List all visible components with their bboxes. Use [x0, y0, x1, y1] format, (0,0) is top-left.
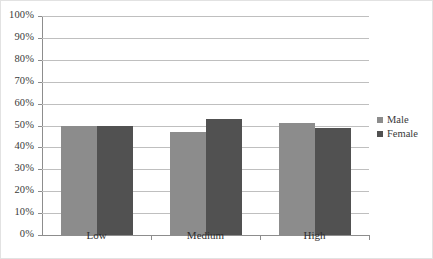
y-axis-tick-label: 90%: [1, 31, 34, 42]
chart-legend: MaleFemale: [377, 113, 418, 141]
y-axis-tick-label: 20%: [1, 184, 34, 195]
bar-female-medium: [206, 119, 242, 235]
gridline: [42, 38, 369, 39]
bar-male-high: [279, 123, 315, 235]
y-axis-tick-label: 30%: [1, 162, 34, 173]
legend-item-female[interactable]: Female: [377, 127, 418, 141]
y-axis-tick-label: 100%: [1, 9, 34, 20]
x-axis-label-medium: Medium: [151, 229, 260, 241]
y-axis-tick-label: 70%: [1, 75, 34, 86]
legend-swatch-icon: [377, 117, 383, 123]
x-tick-mark: [369, 235, 370, 240]
gridline: [42, 60, 369, 61]
legend-label: Male: [387, 115, 409, 126]
legend-item-male[interactable]: Male: [377, 113, 418, 127]
y-tick-mark: [38, 104, 42, 105]
chart-figure: 100%90%80%70%60%50%40%30%20%10%0% LowMed…: [0, 0, 433, 259]
y-tick-mark: [38, 147, 42, 148]
y-axis-tick-label: 60%: [1, 97, 34, 108]
plot-area: [42, 16, 369, 235]
bar-female-low: [97, 126, 133, 236]
bar-female-high: [315, 128, 351, 235]
gridline: [42, 104, 369, 105]
y-axis-tick-label: 50%: [1, 119, 34, 130]
bar-male-low: [61, 126, 97, 236]
y-tick-mark: [38, 169, 42, 170]
x-axis-label-high: High: [260, 229, 369, 241]
x-axis-label-low: Low: [42, 229, 151, 241]
y-tick-mark: [38, 16, 42, 17]
y-axis-tick-label: 40%: [1, 140, 34, 151]
y-tick-mark: [38, 213, 42, 214]
y-tick-mark: [38, 82, 42, 83]
y-tick-mark: [38, 191, 42, 192]
gridline: [42, 16, 369, 17]
y-tick-mark: [38, 126, 42, 127]
y-tick-mark: [38, 60, 42, 61]
y-axis-tick-label: 0%: [1, 228, 34, 239]
gridline: [42, 82, 369, 83]
y-axis-tick-label: 10%: [1, 206, 34, 217]
legend-swatch-icon: [377, 131, 383, 137]
legend-label: Female: [387, 129, 418, 140]
bar-male-medium: [170, 132, 206, 235]
y-axis-tick-label: 80%: [1, 53, 34, 64]
y-tick-mark: [38, 38, 42, 39]
